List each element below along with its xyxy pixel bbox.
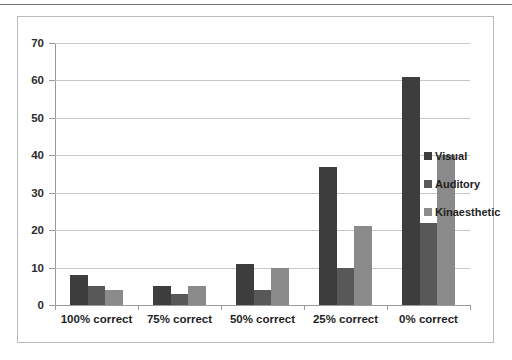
x-axis-label: 50% correct (230, 313, 295, 325)
gridline-0 (55, 305, 470, 306)
legend-swatch-icon (424, 208, 432, 216)
bar-auditory-3 (337, 268, 355, 305)
bar-group (70, 43, 123, 305)
bar-auditory-4 (420, 223, 438, 305)
y-axis-label: 60 (18, 74, 44, 86)
bar-auditory-1 (171, 294, 189, 305)
y-tick-20 (49, 230, 55, 231)
x-tick (304, 305, 305, 310)
legend-label: Visual (435, 150, 467, 162)
bar-group (236, 43, 289, 305)
bar-kinaesthetic-3 (354, 226, 372, 305)
x-tick (138, 305, 139, 310)
bar-visual-4 (402, 77, 420, 305)
bar-visual-1 (153, 286, 171, 305)
chart-legend: VisualAuditoryKinaesthetic (424, 142, 494, 226)
legend-swatch-icon (424, 180, 432, 188)
y-tick-70 (49, 43, 55, 44)
scan-artifact-line (0, 4, 512, 5)
x-tick (387, 305, 388, 310)
bar-visual-3 (319, 167, 337, 305)
y-tick-60 (49, 80, 55, 81)
x-tick (221, 305, 222, 310)
x-tick (470, 305, 471, 310)
legend-swatch-icon (424, 152, 432, 160)
y-axis-label: 20 (18, 224, 44, 236)
legend-item-auditory[interactable]: Auditory (424, 170, 494, 198)
x-axis-label: 75% correct (147, 313, 212, 325)
y-tick-30 (49, 193, 55, 194)
x-axis-label: 100% correct (61, 313, 133, 325)
bar-group (319, 43, 372, 305)
bar-group (153, 43, 206, 305)
bar-kinaesthetic-1 (188, 286, 206, 305)
y-axis-label: 10 (18, 262, 44, 274)
x-axis-label: 25% correct (313, 313, 378, 325)
bar-auditory-0 (88, 286, 106, 305)
bar-visual-0 (70, 275, 88, 305)
x-tick (55, 305, 56, 310)
bar-visual-2 (236, 264, 254, 305)
legend-label: Auditory (435, 178, 480, 190)
legend-item-visual[interactable]: Visual (424, 142, 494, 170)
bar-kinaesthetic-2 (271, 268, 289, 305)
y-axis-label: 40 (18, 149, 44, 161)
y-axis-label: 30 (18, 187, 44, 199)
y-axis-label: 70 (18, 37, 44, 49)
x-axis-label: 0% correct (399, 313, 458, 325)
legend-item-kinaesthetic[interactable]: Kinaesthetic (424, 198, 494, 226)
y-tick-10 (49, 268, 55, 269)
plot-area (55, 43, 470, 305)
y-axis-label: 50 (18, 112, 44, 124)
y-tick-50 (49, 118, 55, 119)
y-tick-40 (49, 155, 55, 156)
legend-label: Kinaesthetic (435, 206, 500, 218)
bar-auditory-2 (254, 290, 272, 305)
y-axis-label: 0 (18, 299, 44, 311)
bar-kinaesthetic-0 (105, 290, 123, 305)
